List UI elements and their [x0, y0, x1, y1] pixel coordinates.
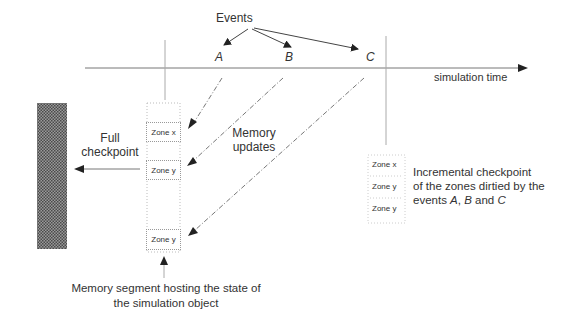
- memory-caption-line2: the simulation object: [56, 296, 276, 311]
- incremental-zone-x: Zone x: [372, 160, 396, 169]
- event-c-label: C: [366, 51, 375, 65]
- events-label: Events: [216, 12, 253, 26]
- event-b-label: B: [285, 51, 293, 65]
- memory-zone-y-1: Zone y: [146, 160, 181, 180]
- incremental-zone-y-2: Zone y: [372, 204, 396, 213]
- memory-caption-line1: Memory segment hosting the state of: [56, 281, 276, 296]
- caption-sep: and: [472, 194, 498, 206]
- full-checkpoint-arrow: [74, 165, 140, 173]
- memory-zone-y-2: Zone y: [146, 229, 181, 250]
- events-arrows: [224, 28, 358, 49]
- caption-event-c: C: [497, 194, 505, 206]
- memory-updates-label: Memory updates: [228, 127, 280, 155]
- incremental-zone-y-1: Zone y: [372, 182, 396, 191]
- memory-zone-x: Zone x: [146, 122, 181, 142]
- memory-segment-pointer: [160, 256, 168, 278]
- incremental-checkpoint-caption: Incremental checkpoint of the zones dirt…: [413, 165, 545, 207]
- event-a-label: A: [215, 51, 223, 65]
- caption-event-b: B: [464, 194, 472, 206]
- memory-update-arrowheads: [187, 118, 198, 236]
- caption-event-a: A: [450, 194, 458, 206]
- caption-prefix: events: [413, 194, 450, 206]
- incremental-caption-line3: events A, B and C: [413, 193, 545, 207]
- incremental-caption-line1: Incremental checkpoint: [413, 165, 545, 179]
- memory-updates-label-line2: updates: [228, 141, 280, 155]
- full-checkpoint-label-line2: checkpoint: [77, 146, 143, 160]
- memory-updates-label-line1: Memory: [228, 127, 280, 141]
- full-checkpoint-storage: [37, 103, 67, 249]
- timeline-label: simulation time: [434, 71, 507, 84]
- diagram-canvas: [0, 0, 587, 324]
- full-checkpoint-label-line1: Full: [77, 132, 143, 146]
- memory-segment-caption: Memory segment hosting the state of the …: [56, 281, 276, 311]
- full-checkpoint-label: Full checkpoint: [77, 132, 143, 160]
- incremental-caption-line2: of the zones dirtied by the: [413, 179, 545, 193]
